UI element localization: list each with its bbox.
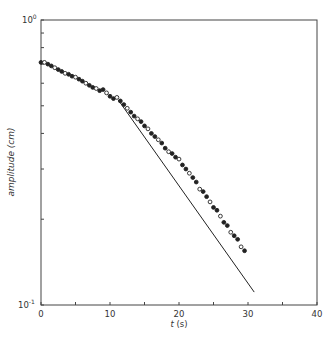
x-tick-label: 40 <box>312 309 323 319</box>
fit-line-segment <box>118 100 254 292</box>
data-point <box>177 157 181 161</box>
data-point <box>150 132 154 136</box>
data-point <box>129 110 133 114</box>
data-point <box>160 141 164 145</box>
data-point <box>232 234 236 238</box>
data-point <box>170 152 174 156</box>
data-point <box>118 99 122 103</box>
data-point <box>105 91 109 95</box>
data-point <box>243 249 247 253</box>
y-bottom-tick-label: 10-1 <box>18 298 35 310</box>
data-point <box>136 117 140 121</box>
data-point <box>153 135 157 139</box>
data-point <box>219 214 223 218</box>
data-point <box>225 224 229 228</box>
data-point <box>143 124 147 128</box>
data-point <box>229 230 233 234</box>
data-points <box>39 60 246 252</box>
data-point <box>146 127 150 131</box>
plot-frame <box>41 20 317 305</box>
data-point <box>125 106 129 110</box>
data-point <box>132 114 136 118</box>
chart-canvas: 010203040 100 10-1 t (s) amplitude (cm) <box>0 0 335 339</box>
x-tick-label: 10 <box>105 309 116 319</box>
data-point <box>201 190 205 194</box>
data-point <box>184 167 188 171</box>
data-point <box>212 206 216 210</box>
data-point <box>139 120 143 124</box>
data-point <box>181 163 185 167</box>
y-axis-title: amplitude (cm) <box>6 127 16 196</box>
data-point <box>163 146 167 150</box>
fit-line <box>118 100 254 292</box>
data-point <box>208 200 212 204</box>
x-axis-title: t (s) <box>170 319 187 329</box>
data-point <box>236 237 240 241</box>
data-point <box>115 96 119 100</box>
data-point <box>101 88 105 92</box>
data-point <box>222 220 226 224</box>
x-axis-tick-labels: 010203040 <box>38 309 322 319</box>
x-tick-label: 30 <box>243 309 254 319</box>
data-point <box>194 180 198 184</box>
data-point <box>156 138 160 142</box>
data-point <box>187 171 191 175</box>
y-top-tick-label: 100 <box>22 13 37 25</box>
data-point <box>205 195 209 199</box>
data-point <box>198 187 202 191</box>
x-tick-label: 20 <box>174 309 185 319</box>
data-point <box>122 103 126 107</box>
data-point <box>215 208 219 212</box>
data-point <box>191 176 195 180</box>
x-tick-label: 0 <box>38 309 43 319</box>
data-point <box>239 245 243 249</box>
